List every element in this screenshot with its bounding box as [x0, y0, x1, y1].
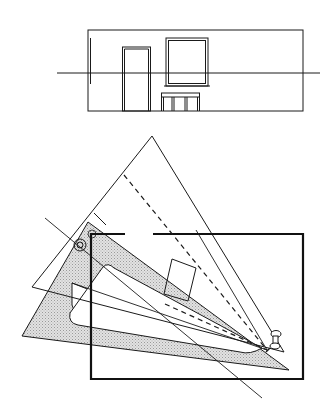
pin-icon	[266, 331, 281, 353]
set-square-edge	[94, 213, 106, 225]
wall-elevation	[57, 30, 320, 111]
wall-outline	[88, 30, 303, 111]
table	[162, 93, 200, 111]
door	[123, 47, 151, 111]
triangle-setup	[22, 136, 303, 398]
window	[164, 38, 210, 86]
diagram-canvas: Perspective drawing setup: wall elevatio…	[0, 0, 332, 408]
